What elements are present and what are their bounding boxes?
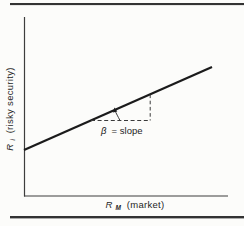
x-axis-symbol: R — [105, 199, 112, 210]
characteristic-line-chart: R i (risky security) R M (market) β = sl… — [0, 0, 244, 226]
top-rule — [10, 3, 244, 5]
y-axis-label-rest: (risky security) — [4, 67, 15, 133]
beta-annotation: β = slope — [100, 125, 142, 136]
y-axis-subscript: i — [9, 139, 16, 141]
beta-annotation-rest: = slope — [112, 125, 143, 136]
characteristic-line — [24, 67, 212, 150]
beta-symbol: β — [100, 125, 107, 136]
x-axis-subscript: M — [116, 204, 122, 211]
x-axis-label: R M (market) — [105, 199, 164, 212]
y-axis-label: R i (risky security) — [4, 67, 17, 150]
x-axis-label-rest: (market) — [127, 199, 165, 210]
figure: R i (risky security) R M (market) β = sl… — [0, 0, 244, 226]
y-axis-symbol: R — [4, 144, 15, 151]
bottom-rule — [10, 216, 244, 218]
beta-leader-arrow — [115, 111, 120, 121]
